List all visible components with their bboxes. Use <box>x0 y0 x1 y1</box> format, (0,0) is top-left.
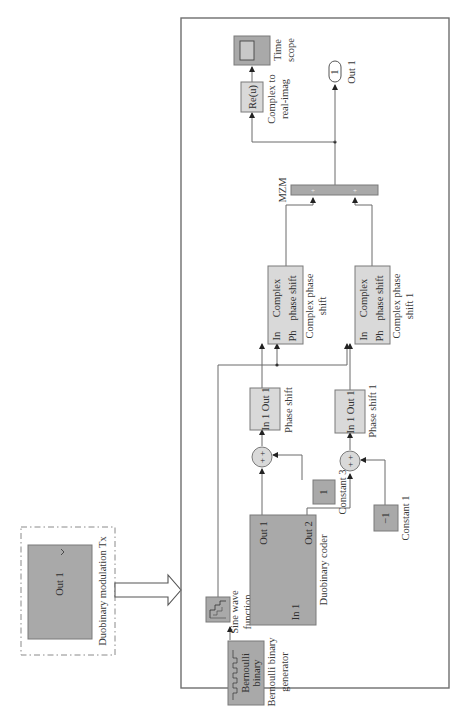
constant-1-label: Constant 1 <box>400 495 411 540</box>
out-1-port[interactable]: 1 Out 1 <box>329 60 357 84</box>
svg-text:+ +: + + <box>345 455 355 467</box>
svg-text:+: + <box>311 187 315 195</box>
svg-text:In 1 Out 1: In 1 Out 1 <box>345 391 356 434</box>
subsystem-title: Duobinary modulation Tx <box>97 536 108 646</box>
duobinary-coder-label: Duobinary coder <box>318 534 329 605</box>
constant-1-block[interactable]: −1 Constant 1 <box>374 495 411 540</box>
sine-wave-block[interactable]: Sine wave function <box>206 590 253 634</box>
sum-top-block[interactable]: + + <box>252 447 272 467</box>
svg-text:In: In <box>358 331 369 340</box>
sine-wave-label: Sine wave <box>229 590 240 634</box>
constant-3-label: Constant 3 <box>337 469 348 514</box>
svg-text:1: 1 <box>318 489 329 494</box>
subsystem-port-label: Out 1 <box>54 572 65 596</box>
svg-text:real-imag: real-imag <box>279 78 290 119</box>
svg-text:Bernoulli: Bernoulli <box>240 653 251 693</box>
svg-text:+ +: + + <box>257 451 267 463</box>
port-out-1: Out 1 <box>258 521 269 545</box>
out-1-label: Out 1 <box>346 60 357 84</box>
time-scope-label: Time <box>272 39 283 61</box>
svg-text:1: 1 <box>329 69 340 74</box>
time-scope-block[interactable]: Time scope <box>234 36 296 65</box>
bernoulli-label-2: generator <box>279 652 290 692</box>
svg-text:Complex: Complex <box>358 278 369 317</box>
duobinary-coder-block[interactable]: In 1 Out 1 Out 2 Duobinary coder <box>250 515 329 625</box>
svg-text:Ph: Ph <box>287 330 298 342</box>
phase-shift-1-block[interactable]: In 1 Out 1 Phase shift 1 <box>335 384 378 438</box>
svg-text:In: In <box>271 331 282 340</box>
svg-text:phase shift: phase shift <box>374 275 385 320</box>
phase-shift-1-label: Phase shift 1 <box>367 384 378 438</box>
phase-shift-label: Phase shift <box>283 387 294 433</box>
complex-phase-shift-1-label: Complex phase <box>391 273 402 338</box>
scope-screen-icon <box>240 41 254 60</box>
svg-text:Re(u): Re(u) <box>247 85 259 109</box>
mzm-label: MZM <box>277 177 288 203</box>
sum-bottom-block[interactable]: + + <box>340 451 360 471</box>
svg-text:shift 1: shift 1 <box>404 293 415 320</box>
svg-text:scope: scope <box>285 38 296 62</box>
complex-phase-shift-label: Complex phase <box>304 273 315 338</box>
svg-text:Complex: Complex <box>271 278 282 317</box>
complex-to-real-label: Complex to <box>266 74 277 123</box>
svg-text:phase shift: phase shift <box>287 275 298 320</box>
complex-phase-shift-1-block[interactable]: In Ph Complex phase shift Complex phase … <box>355 266 415 344</box>
complex-to-real-imag-block[interactable]: Re(u) Complex to real-imag <box>241 74 290 123</box>
mzm-block[interactable]: + + MZM <box>277 177 378 203</box>
subsystem-duobinary-tx[interactable]: Out 1 Duobinary modulation Tx <box>21 527 115 655</box>
bernoulli-binary-block[interactable]: Bernoulli binary Bernoulli binary genera… <box>228 637 290 707</box>
port-in-1: In 1 <box>290 604 301 621</box>
phase-shift-block[interactable]: In 1 Out 1 Phase shift <box>250 387 294 433</box>
port-out-2: Out 2 <box>303 521 314 545</box>
svg-text:−1: −1 <box>380 512 391 523</box>
complex-phase-shift-block[interactable]: In Ph Complex phase shift Complex phase … <box>268 266 328 344</box>
svg-text:binary: binary <box>251 659 262 687</box>
svg-text:+: + <box>353 187 357 195</box>
duobinary-diagram: Out 1 Duobinary modulation Tx <box>0 0 465 707</box>
svg-text:Ph: Ph <box>374 330 385 342</box>
svg-text:shift: shift <box>317 297 328 316</box>
bernoulli-label: Bernoulli binary <box>266 637 277 707</box>
expand-arrow-icon <box>115 575 181 605</box>
svg-text:In 1 Out 1: In 1 Out 1 <box>260 388 271 431</box>
